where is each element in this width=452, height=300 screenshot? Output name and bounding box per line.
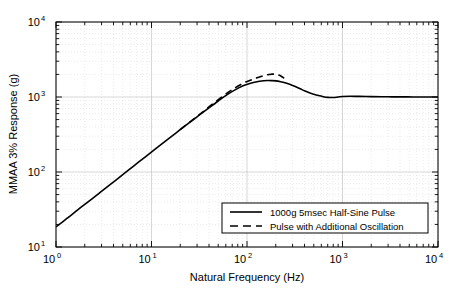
y-tick-label: 10 [28, 241, 40, 253]
x-tick-label: 10 [234, 253, 246, 265]
x-tick-exponent: 0 [57, 251, 61, 260]
y-tick-exponent: 4 [41, 14, 45, 23]
y-tick-label: 10 [28, 16, 40, 28]
x-tick-exponent: 2 [248, 251, 252, 260]
x-tick-label: 10 [425, 253, 437, 265]
x-tick-label: 10 [43, 253, 55, 265]
chart-legend: 1000g 5msec Half-Sine PulsePulse with Ad… [222, 203, 428, 233]
y-tick-label: 10 [28, 166, 40, 178]
figure-canvas: 100101102103104 101102103104 Natural Fre… [0, 0, 452, 300]
legend-label: 1000g 5msec Half-Sine Pulse [270, 207, 395, 218]
x-tick-label: 10 [329, 253, 341, 265]
x-tick-label: 10 [138, 253, 150, 265]
x-tick-exponent: 3 [344, 251, 348, 260]
y-tick-exponent: 2 [41, 164, 45, 173]
x-axis-label: Natural Frequency (Hz) [190, 271, 304, 283]
y-tick-exponent: 3 [41, 89, 45, 98]
legend-label: Pulse with Additional Oscillation [270, 221, 404, 232]
y-tick-label: 10 [28, 91, 40, 103]
srs-log-log-chart: 100101102103104 101102103104 Natural Fre… [0, 0, 452, 300]
x-tick-exponent: 1 [153, 251, 157, 260]
y-axis-label: MMAA 3% Response (g) [7, 74, 19, 194]
x-tick-exponent: 4 [439, 251, 443, 260]
figure-background [0, 0, 452, 300]
y-tick-exponent: 1 [41, 239, 45, 248]
